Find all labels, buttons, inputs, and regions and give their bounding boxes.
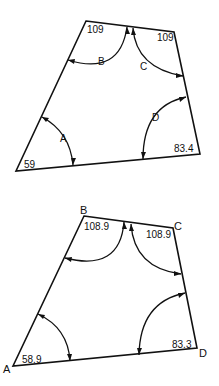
top-arrow-d-start-icon bbox=[179, 97, 186, 102]
bottom-arc-a bbox=[38, 314, 70, 361]
bottom-quadrilateral: A B C D 58.9 108.9 108.9 83.3 bbox=[3, 204, 207, 375]
top-angle-label-a: A bbox=[60, 133, 67, 144]
top-quad-outline bbox=[16, 21, 200, 171]
top-angle-label-d: D bbox=[152, 112, 159, 123]
bottom-angle-value-c: 108.9 bbox=[146, 229, 171, 240]
diagram-canvas: A B C D 59 109 109 83.4 A B C D 58. bbox=[0, 0, 219, 386]
bottom-arrow-a-start-icon bbox=[38, 314, 45, 319]
top-quadrilateral: A B C D 59 109 109 83.4 bbox=[16, 21, 200, 171]
bottom-vertex-label-b: B bbox=[80, 204, 87, 216]
bottom-angle-value-a: 58.9 bbox=[22, 354, 42, 365]
top-angle-value-b: 109 bbox=[87, 24, 104, 35]
bottom-arrow-d-start-icon bbox=[178, 293, 185, 298]
bottom-angle-value-b: 108.9 bbox=[84, 221, 109, 232]
top-arc-a bbox=[42, 117, 73, 165]
top-angle-value-c: 109 bbox=[157, 32, 174, 43]
bottom-vertex-label-d: D bbox=[199, 347, 207, 359]
top-angle-value-d: 83.4 bbox=[174, 143, 194, 154]
top-angle-label-b: B bbox=[98, 56, 105, 67]
bottom-angle-value-d: 83.3 bbox=[172, 339, 192, 350]
bottom-vertex-label-c: C bbox=[174, 220, 182, 232]
top-angle-label-c: C bbox=[140, 61, 147, 72]
top-angle-value-a: 59 bbox=[24, 159, 36, 170]
bottom-vertex-label-a: A bbox=[3, 363, 11, 375]
